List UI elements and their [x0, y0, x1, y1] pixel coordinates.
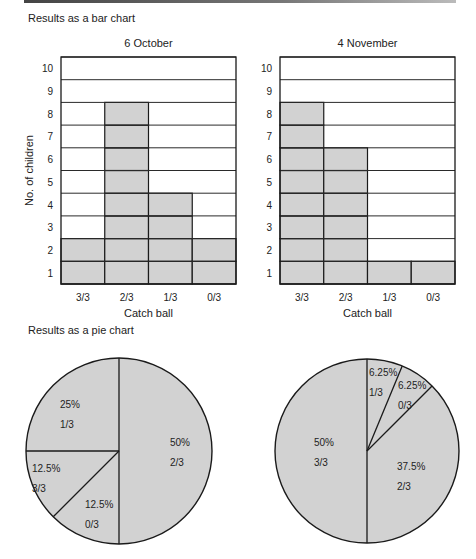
bar-cell [149, 261, 193, 284]
y-tick-label: 5 [266, 177, 272, 188]
y-tick-label: 9 [266, 86, 272, 97]
pie-percent-label: 50% [170, 437, 190, 448]
y-tick-label: 4 [266, 200, 272, 211]
bar-cell [149, 239, 193, 262]
x-tick-label: 0/3 [207, 292, 221, 303]
x-axis-label: Catch ball [124, 307, 173, 319]
pie-percent-label: 12.5% [85, 499, 113, 510]
bar-chart-title: 6 October [124, 37, 173, 49]
bar-cell [324, 239, 368, 262]
bar-cell [105, 125, 149, 148]
y-tick-label: 7 [266, 131, 272, 142]
pie-category-label: 3/3 [314, 457, 328, 468]
pie-category-label: 2/3 [397, 481, 411, 492]
y-tick-label: 2 [266, 245, 272, 256]
y-tick-label: 10 [42, 63, 54, 74]
bar-cell [280, 193, 324, 216]
y-tick-label: 5 [47, 177, 53, 188]
bar-cell [105, 239, 149, 262]
bar-cell [280, 261, 324, 284]
bar-cell [280, 216, 324, 239]
y-tick-label: 6 [47, 154, 53, 165]
y-axis-label: No. of children [23, 135, 35, 206]
pie-category-label: 0/3 [398, 400, 412, 411]
bar-cell [105, 216, 149, 239]
y-tick-label: 8 [266, 109, 272, 120]
x-tick-label: 0/3 [426, 292, 440, 303]
x-tick-label: 3/3 [76, 292, 90, 303]
pie-percent-label: 37.5% [397, 461, 425, 472]
y-tick-label: 1 [47, 268, 53, 279]
pie-percent-label: 50% [314, 437, 334, 448]
y-tick-label: 8 [47, 109, 53, 120]
y-tick-label: 2 [47, 245, 53, 256]
pie-category-label: 1/3 [60, 419, 74, 430]
bar-cell [149, 193, 193, 216]
x-tick-label: 3/3 [295, 292, 309, 303]
bar-cell [105, 261, 149, 284]
bar-cell [280, 171, 324, 194]
y-tick-label: 3 [266, 222, 272, 233]
bar-cell [192, 239, 236, 262]
y-tick-label: 1 [266, 268, 272, 279]
bar-cell [105, 193, 149, 216]
pie-category-label: 3/3 [32, 483, 46, 494]
bar-cell [280, 239, 324, 262]
y-tick-label: 4 [47, 200, 53, 211]
y-tick-label: 7 [47, 131, 53, 142]
pie-percent-label: 25% [60, 399, 80, 410]
bar-cell [411, 261, 455, 284]
bar-cell [324, 216, 368, 239]
bar-cell [280, 125, 324, 148]
pie-percent-label: 6.25% [398, 380, 426, 391]
bar-cell [149, 216, 193, 239]
bar-cell [105, 102, 149, 125]
x-tick-label: 1/3 [163, 292, 177, 303]
x-tick-label: 2/3 [120, 292, 134, 303]
x-tick-label: 1/3 [382, 292, 396, 303]
pie-category-label: 2/3 [170, 457, 184, 468]
bar-cell [105, 171, 149, 194]
y-tick-label: 9 [47, 86, 53, 97]
bar-cell [324, 193, 368, 216]
bar-cell [61, 239, 105, 262]
bar-cell [61, 261, 105, 284]
y-tick-label: 3 [47, 222, 53, 233]
bar-cell [280, 148, 324, 171]
pie-percent-label: 12.5% [32, 463, 60, 474]
x-tick-label: 2/3 [339, 292, 353, 303]
bar-cell [324, 171, 368, 194]
bar-cell [324, 261, 368, 284]
charts-canvas: 6 October123456789103/32/31/30/3Catch ba… [0, 0, 476, 559]
bar-cell [280, 102, 324, 125]
x-axis-label: Catch ball [343, 307, 392, 319]
bar-cell [192, 261, 236, 284]
bar-cell [105, 148, 149, 171]
pie-percent-label: 6.25% [369, 367, 397, 378]
bar-cell [368, 261, 412, 284]
y-tick-label: 10 [261, 63, 273, 74]
y-tick-label: 6 [266, 154, 272, 165]
pie-category-label: 0/3 [85, 519, 99, 530]
bar-cell [324, 148, 368, 171]
bar-chart-title: 4 November [338, 37, 398, 49]
pie-category-label: 1/3 [369, 387, 383, 398]
